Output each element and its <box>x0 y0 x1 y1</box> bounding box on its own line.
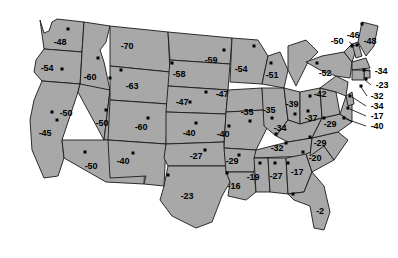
state-marker-dot-ne <box>189 101 192 104</box>
state-value-label-me: -48 <box>364 37 376 46</box>
state-marker-dot-ca <box>56 119 59 122</box>
state-value-label-mo: -40 <box>217 130 229 139</box>
label-leader-line <box>361 87 367 96</box>
label-leader-line <box>365 80 371 85</box>
state-marker-dot-wv <box>307 110 310 113</box>
state-value-label-ri: -23 <box>376 81 388 90</box>
state-marker-dot-nv <box>51 111 54 114</box>
state-marker-dot-tx <box>167 174 170 177</box>
state-shape-wa <box>40 19 84 52</box>
state-marker-dot-ar <box>238 154 241 157</box>
state-value-label-de: -17 <box>371 112 383 121</box>
state-marker-dot-mt <box>109 77 112 80</box>
state-marker-dot-il <box>249 120 252 123</box>
state-value-label-mt: -70 <box>121 42 133 51</box>
state-value-label-wi: -51 <box>266 71 278 80</box>
state-value-label-fl: -2 <box>316 207 324 216</box>
state-marker-dot-mn <box>253 45 256 48</box>
state-marker-dot-nd <box>223 49 226 52</box>
state-value-label-wv: -37 <box>305 114 317 123</box>
state-marker-dot-ky <box>275 133 278 136</box>
state-value-label-ar: -29 <box>226 157 238 166</box>
state-value-label-oh: -39 <box>286 100 298 109</box>
state-value-label-nd: -59 <box>205 56 217 65</box>
state-value-label-ky: -34 <box>274 124 286 133</box>
state-value-label-ks: -40 <box>183 129 195 138</box>
state-marker-dot-id <box>97 57 100 60</box>
state-marker-dot-in <box>271 117 274 120</box>
state-shape-wy <box>110 66 170 104</box>
state-value-label-ga: -17 <box>291 168 303 177</box>
state-value-label-sd: -58 <box>173 70 185 79</box>
state-marker-dot-wi <box>270 62 273 65</box>
state-marker-dot-ia <box>205 91 208 94</box>
state-value-label-tn: -32 <box>271 144 283 153</box>
state-marker-dot-ct <box>360 85 363 88</box>
state-value-label-wy: -63 <box>126 82 138 91</box>
state-marker-dot-ga <box>287 162 290 165</box>
state-value-label-la: -16 <box>228 182 240 191</box>
state-marker-dot-or <box>61 68 64 71</box>
state-value-label-ok: -27 <box>190 152 202 161</box>
state-value-label-va: -29 <box>324 120 336 129</box>
state-value-label-pa: -42 <box>314 90 326 99</box>
state-value-label-ny: -52 <box>319 69 331 78</box>
state-value-label-tx: -23 <box>181 192 193 201</box>
state-marker-dot-va <box>323 117 326 120</box>
state-value-label-in: -35 <box>263 106 275 115</box>
state-marker-dot-ms <box>259 162 262 165</box>
state-value-label-ut: -50 <box>96 119 108 128</box>
state-value-label-az: -50 <box>85 162 97 171</box>
state-marker-dot-wy <box>120 69 123 72</box>
state-marker-dot-sd <box>171 62 174 65</box>
state-marker-dot-al <box>274 162 277 165</box>
state-value-label-nc: -29 <box>314 139 326 148</box>
state-shape-ma <box>352 58 370 70</box>
state-value-label-co: -60 <box>135 123 147 132</box>
state-value-label-nm: -40 <box>117 157 129 166</box>
state-value-label-nh: -46 <box>347 31 359 40</box>
state-marker-dot-nh <box>356 44 359 47</box>
state-marker-dot-co <box>147 117 150 120</box>
state-marker-dot-la <box>226 172 229 175</box>
state-marker-dot-ri <box>365 78 368 81</box>
state-marker-dot-tn <box>285 142 288 145</box>
state-marker-dot-sc <box>302 151 305 154</box>
state-value-label-ia: -47 <box>216 90 228 99</box>
state-marker-dot-fl <box>292 193 295 196</box>
us-map-container: -48-54-60-70-59-54-63-58-47-47-51-50-50-… <box>0 0 398 258</box>
state-marker-dot-oh <box>294 113 297 116</box>
state-value-label-md: -40 <box>371 122 383 131</box>
state-value-label-nv: -50 <box>60 109 72 118</box>
state-value-label-vt: -50 <box>331 37 343 46</box>
state-value-label-or: -54 <box>41 64 53 73</box>
state-value-label-il: -35 <box>241 108 253 117</box>
state-shape-mt <box>110 26 170 72</box>
state-marker-dot-az <box>84 151 87 154</box>
label-leader-line <box>352 97 366 106</box>
state-shape-tx <box>160 166 230 228</box>
state-marker-dot-md <box>343 117 346 120</box>
state-marker-dot-ks <box>195 122 198 125</box>
state-marker-dot-me <box>361 23 364 26</box>
state-marker-dot-nm <box>132 152 135 155</box>
state-value-label-id: -60 <box>84 73 96 82</box>
state-shape-ct <box>352 70 364 80</box>
state-value-label-ct: -32 <box>371 92 383 101</box>
state-shape-ca <box>30 81 80 178</box>
state-value-label-sc: -20 <box>309 154 321 163</box>
state-marker-dot-nc <box>309 136 312 139</box>
state-marker-dot-pa <box>309 95 312 98</box>
state-marker-dot-ny <box>316 62 319 65</box>
state-value-label-mn: -54 <box>235 65 247 74</box>
state-marker-dot-ma <box>363 69 366 72</box>
state-marker-dot-nj <box>349 95 352 98</box>
state-marker-dot-mo <box>228 125 231 128</box>
state-marker-dot-ok <box>204 149 207 152</box>
state-marker-dot-vt <box>351 45 354 48</box>
state-value-label-ca: -45 <box>39 129 51 138</box>
state-marker-dot-de <box>347 107 350 110</box>
state-value-label-ne: -47 <box>176 98 188 107</box>
state-value-label-al: -27 <box>270 172 282 181</box>
state-marker-dot-wa <box>67 28 70 31</box>
